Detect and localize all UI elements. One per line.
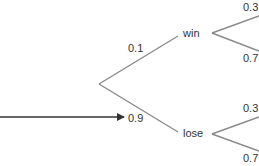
win-sub-branches [212,16,259,51]
win-sub-prob-top: 0.3 [243,2,258,13]
lose-sub-branches [212,117,259,151]
probability-tree-lines [0,0,259,166]
outcome-lose-label: lose [183,128,203,139]
prob-lose-label: 0.9 [128,113,143,124]
outcome-win-label: win [183,28,200,39]
branch-lose [99,84,178,132]
prob-win-label: 0.1 [128,43,143,54]
lose-sub-prob-bottom: 0.7 [243,153,258,164]
lose-sub-prob-top: 0.3 [243,103,258,114]
win-sub-prob-bottom: 0.7 [243,53,258,64]
